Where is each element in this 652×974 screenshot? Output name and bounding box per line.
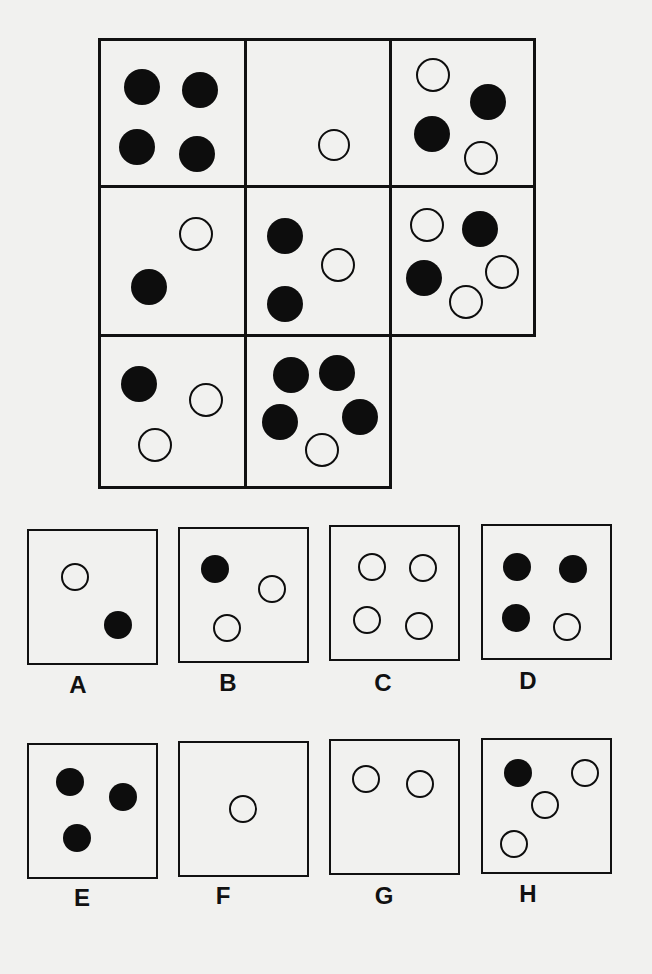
filled-circle-icon bbox=[267, 286, 303, 322]
filled-circle-icon bbox=[182, 72, 218, 108]
filled-circle-icon bbox=[267, 218, 303, 254]
filled-circle-icon bbox=[342, 399, 378, 435]
filled-circle-icon bbox=[109, 783, 137, 811]
grid-line bbox=[98, 38, 536, 41]
empty-circle-icon bbox=[409, 554, 437, 582]
empty-circle-icon bbox=[571, 759, 599, 787]
matrix-cell bbox=[246, 40, 390, 187]
filled-circle-icon bbox=[201, 555, 229, 583]
empty-circle-icon bbox=[553, 613, 581, 641]
empty-circle-icon bbox=[213, 614, 241, 642]
grid-line bbox=[98, 185, 536, 188]
matrix-cell bbox=[390, 40, 534, 187]
empty-circle-icon bbox=[406, 770, 434, 798]
matrix-cell bbox=[246, 187, 390, 335]
filled-circle-icon bbox=[502, 604, 530, 632]
empty-circle-icon bbox=[305, 433, 339, 467]
matrix-cell bbox=[100, 335, 246, 487]
empty-circle-icon bbox=[352, 765, 380, 793]
filled-circle-icon bbox=[262, 404, 298, 440]
filled-circle-icon bbox=[131, 269, 167, 305]
option-label[interactable]: F bbox=[203, 882, 243, 910]
empty-circle-icon bbox=[61, 563, 89, 591]
empty-circle-icon bbox=[464, 141, 498, 175]
empty-circle-icon bbox=[179, 217, 213, 251]
option-label[interactable]: D bbox=[508, 667, 548, 695]
filled-circle-icon bbox=[63, 824, 91, 852]
empty-circle-icon bbox=[321, 248, 355, 282]
option-label[interactable]: E bbox=[62, 884, 102, 912]
filled-circle-icon bbox=[559, 555, 587, 583]
filled-circle-icon bbox=[406, 260, 442, 296]
filled-circle-icon bbox=[503, 553, 531, 581]
empty-circle-icon bbox=[531, 791, 559, 819]
filled-circle-icon bbox=[121, 366, 157, 402]
empty-circle-icon bbox=[353, 606, 381, 634]
answer-option-f[interactable] bbox=[178, 741, 309, 877]
grid-line bbox=[389, 38, 392, 489]
filled-circle-icon bbox=[504, 759, 532, 787]
option-label[interactable]: B bbox=[208, 669, 248, 697]
filled-circle-icon bbox=[470, 84, 506, 120]
empty-circle-icon bbox=[405, 612, 433, 640]
empty-circle-icon bbox=[416, 58, 450, 92]
answer-option-a[interactable] bbox=[27, 529, 158, 665]
matrix-cell bbox=[100, 40, 246, 187]
empty-circle-icon bbox=[485, 255, 519, 289]
empty-circle-icon bbox=[410, 208, 444, 242]
answer-option-c[interactable] bbox=[329, 525, 460, 661]
option-label[interactable]: C bbox=[363, 669, 403, 697]
answer-option-e[interactable] bbox=[27, 743, 158, 879]
answer-option-b[interactable] bbox=[178, 527, 309, 663]
grid-line bbox=[98, 334, 536, 337]
matrix-cell bbox=[246, 335, 390, 487]
filled-circle-icon bbox=[414, 116, 450, 152]
grid-line bbox=[98, 38, 101, 489]
empty-circle-icon bbox=[258, 575, 286, 603]
option-label[interactable]: G bbox=[364, 882, 404, 910]
empty-circle-icon bbox=[500, 830, 528, 858]
filled-circle-icon bbox=[119, 129, 155, 165]
filled-circle-icon bbox=[104, 611, 132, 639]
empty-circle-icon bbox=[189, 383, 223, 417]
empty-circle-icon bbox=[358, 553, 386, 581]
filled-circle-icon bbox=[462, 211, 498, 247]
answer-option-g[interactable] bbox=[329, 739, 460, 875]
filled-circle-icon bbox=[319, 355, 355, 391]
empty-circle-icon bbox=[449, 285, 483, 319]
filled-circle-icon bbox=[179, 136, 215, 172]
filled-circle-icon bbox=[273, 357, 309, 393]
matrix-cell bbox=[390, 187, 534, 335]
empty-circle-icon bbox=[318, 129, 350, 161]
option-label[interactable]: H bbox=[508, 880, 548, 908]
empty-circle-icon bbox=[138, 428, 172, 462]
filled-circle-icon bbox=[56, 768, 84, 796]
option-label[interactable]: A bbox=[58, 671, 98, 699]
empty-circle-icon bbox=[229, 795, 257, 823]
answer-option-d[interactable] bbox=[481, 524, 612, 660]
matrix-cell bbox=[100, 187, 246, 335]
grid-line bbox=[244, 38, 247, 489]
answer-option-h[interactable] bbox=[481, 738, 612, 874]
filled-circle-icon bbox=[124, 69, 160, 105]
